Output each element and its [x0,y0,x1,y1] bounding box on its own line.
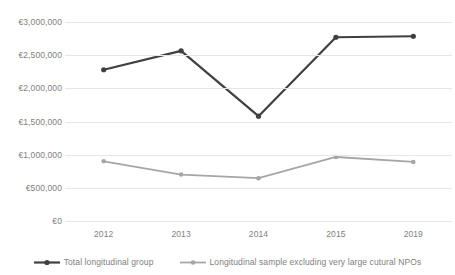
x-axis-tick-label: 2015 [326,228,345,240]
x-axis-tick-label: 2014 [249,228,268,240]
y-axis-tick-label: €2,500,000 [0,50,62,60]
gridline [65,88,452,89]
series-longitudinal-sample-excl-large [101,155,415,181]
legend-item[interactable]: Longitudinal sample excluding very large… [180,257,422,268]
data-point [411,160,416,165]
y-axis: €3,000,000€2,500,000€2,000,000€1,500,000… [0,0,62,275]
x-axis-tick-label: 2012 [94,228,113,240]
x-axis-tick-label: 2019 [404,228,423,240]
gridline [65,188,452,189]
legend-marker-icon [34,258,60,267]
gridline [65,155,452,156]
gridline [65,221,452,222]
x-axis: 20122013201420152019 [65,228,452,242]
y-axis-tick-label: €1,500,000 [0,117,62,127]
data-point [256,176,261,181]
y-axis-tick-label: €1,000,000 [0,150,62,160]
y-axis-tick-label: €2,000,000 [0,83,62,93]
data-point [256,114,261,119]
data-point [101,159,106,164]
y-axis-tick-label: €500,000 [0,183,62,193]
chart-legend: Total longitudinal groupLongitudinal sam… [0,252,455,272]
legend-label: Total longitudinal group [64,257,154,268]
x-axis-tick-label: 2013 [171,228,190,240]
data-point [179,172,184,177]
gridline [65,122,452,123]
data-point [333,35,338,40]
y-axis-tick-label: €0 [0,216,62,226]
gridline [65,22,452,23]
plot-area [65,22,452,221]
series-line [104,157,414,178]
series-line [104,36,414,116]
legend-label: Longitudinal sample excluding very large… [210,257,422,268]
legend-item[interactable]: Total longitudinal group [34,257,154,268]
gridline [65,55,452,56]
data-point [101,67,106,72]
series-total-longitudinal-group [101,34,416,119]
legend-marker-icon [180,258,206,267]
data-point [411,34,416,39]
data-point [179,48,184,53]
line-chart: €3,000,000€2,500,000€2,000,000€1,500,000… [0,0,455,275]
y-axis-tick-label: €3,000,000 [0,17,62,27]
